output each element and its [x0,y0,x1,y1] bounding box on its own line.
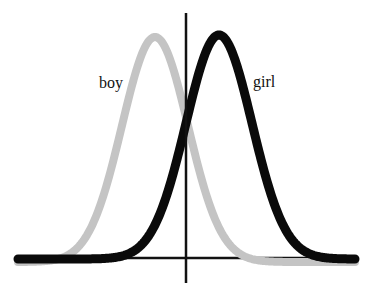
girl-label: girl [253,74,275,90]
distribution-figure [0,0,367,300]
boy-label: boy [99,75,123,91]
